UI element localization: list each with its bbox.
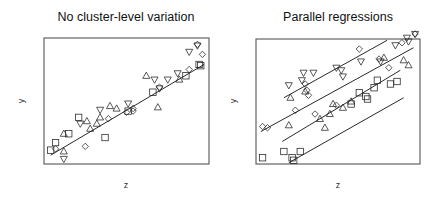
- diamond-marker: [312, 111, 318, 117]
- triangle-up-marker: [321, 124, 328, 130]
- triangle-down-marker: [174, 71, 181, 77]
- regression-lines: [261, 40, 414, 163]
- triangle-down-marker: [285, 83, 292, 89]
- triangle-down-marker: [186, 49, 193, 55]
- triangle-up-marker: [97, 114, 104, 120]
- triangle-down-marker: [298, 78, 305, 84]
- triangle-down-marker: [300, 70, 307, 76]
- triangle-up-marker: [106, 102, 113, 108]
- triangle-down-marker: [310, 70, 317, 76]
- square-marker: [102, 134, 108, 140]
- triangle-up-marker: [143, 72, 150, 78]
- y-axis-label: y: [228, 98, 238, 103]
- square-marker: [75, 114, 81, 120]
- square-marker: [52, 139, 58, 145]
- panel-title: No cluster-level variation: [58, 10, 195, 24]
- panel-title: Parallel regressions: [283, 10, 393, 24]
- triangle-up-marker: [113, 105, 120, 111]
- triangle-down-marker: [392, 43, 399, 49]
- diamond-marker: [130, 108, 136, 114]
- square-marker: [394, 78, 400, 84]
- diamond-marker: [82, 143, 88, 149]
- triangle-up-marker: [285, 122, 292, 128]
- panel-parallel-regressions: Parallel regressions z y: [228, 10, 420, 190]
- triangle-down-marker: [77, 121, 84, 127]
- figure: No cluster-level variation z y Parallel …: [0, 0, 440, 199]
- diamond-marker: [194, 41, 200, 47]
- triangle-down-marker: [97, 107, 104, 113]
- triangle-down-marker: [125, 101, 132, 107]
- diamond-marker: [399, 40, 405, 46]
- square-marker: [259, 155, 265, 161]
- scatter-points: [259, 31, 418, 164]
- x-axis-label: z: [336, 180, 341, 190]
- panel-no-cluster-variation: No cluster-level variation z y: [16, 10, 209, 190]
- square-marker: [364, 96, 370, 102]
- triangle-up-marker: [60, 130, 67, 136]
- diamond-marker: [356, 46, 362, 52]
- triangle-down-marker: [338, 68, 345, 74]
- y-axis-label: y: [16, 98, 26, 103]
- diamond-marker: [199, 51, 205, 57]
- triangle-up-marker: [83, 117, 90, 123]
- diamond-marker: [386, 65, 392, 71]
- triangle-down-marker: [151, 77, 158, 83]
- triangle-down-marker: [60, 156, 67, 162]
- regression-cluster-4-line: [289, 98, 404, 163]
- square-marker: [387, 81, 393, 87]
- triangle-up-marker: [400, 57, 407, 63]
- regression-cluster-2-line: [261, 48, 414, 132]
- triangle-down-marker: [357, 59, 364, 65]
- square-marker: [363, 93, 369, 99]
- square-marker: [297, 148, 303, 154]
- scatter-points: [47, 41, 205, 163]
- regression-cluster-1-line: [284, 40, 387, 98]
- square-marker: [281, 148, 287, 154]
- triangle-down-marker: [403, 35, 410, 41]
- triangle-up-marker: [154, 104, 161, 110]
- triangle-down-marker: [339, 74, 346, 80]
- triangle-down-marker: [164, 77, 171, 83]
- triangle-up-marker: [93, 120, 100, 126]
- x-axis-label: z: [124, 180, 129, 190]
